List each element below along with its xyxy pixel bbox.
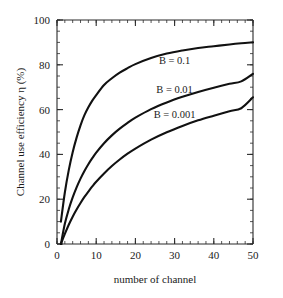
y-tick-label: 20 (39, 193, 51, 205)
chart-figure: 01020304050 020406080100 number of chann… (0, 0, 283, 298)
plot-canvas: 01020304050 020406080100 number of chann… (0, 0, 283, 298)
series-label-0: B = 0.1 (159, 55, 190, 66)
y-tick-label: 80 (39, 59, 51, 71)
x-tick-label: 20 (130, 249, 142, 261)
x-tick-label: 30 (169, 249, 181, 261)
series-inline-labels: B = 0.1B = 0.01B = 0.001 (154, 55, 196, 120)
y-tick-label: 40 (39, 148, 51, 160)
series-label-1: B = 0.01 (156, 84, 193, 95)
x-tick-label: 0 (54, 249, 60, 261)
x-tick-label: 40 (208, 249, 220, 261)
y-tick-label: 0 (45, 238, 51, 250)
y-axis-title: Channel use efficiency η (%) (14, 68, 27, 197)
y-tick-label: 60 (39, 104, 51, 116)
series-label-2: B = 0.001 (154, 109, 196, 120)
x-axis-title: number of channel (114, 273, 196, 285)
x-tick-label: 50 (248, 249, 260, 261)
x-tick-label: 10 (91, 249, 103, 261)
y-tick-label: 100 (34, 14, 51, 26)
